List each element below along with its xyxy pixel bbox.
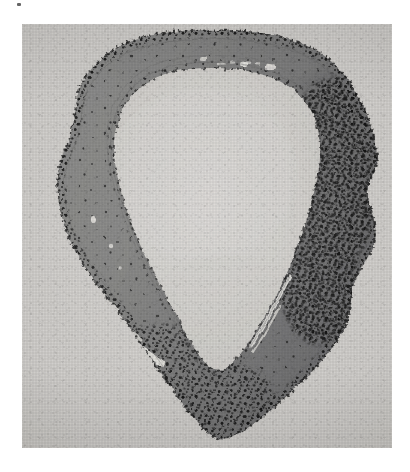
margin-speck: [17, 3, 21, 6]
specimen-graphic: [22, 24, 392, 448]
figure-root: [0, 0, 410, 472]
photomicrograph-plate: [22, 24, 392, 448]
